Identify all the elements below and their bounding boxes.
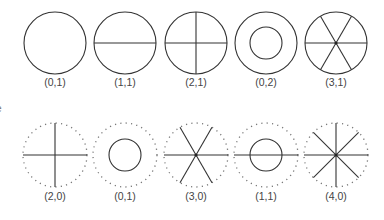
boundary-circle bbox=[235, 12, 297, 74]
dotted-boundary-circle bbox=[93, 123, 157, 187]
mode-label: (3,0) bbox=[185, 190, 207, 202]
mode-label: (4,0) bbox=[325, 190, 347, 202]
mode-top_row-3 bbox=[235, 12, 297, 74]
mode-bottom_row-4 bbox=[304, 123, 368, 187]
mode-label: (2,1) bbox=[185, 76, 207, 88]
mode-diagram bbox=[0, 0, 384, 220]
mode-label: (0,2) bbox=[255, 76, 277, 88]
mode-bottom_row-2 bbox=[164, 123, 228, 187]
nodal-circle bbox=[109, 139, 141, 171]
center-node-dot bbox=[334, 41, 337, 44]
boundary-circle bbox=[24, 12, 86, 74]
mode-top_row-2 bbox=[165, 12, 227, 74]
mode-bottom_row-1 bbox=[93, 123, 157, 187]
nodal-circle bbox=[250, 27, 282, 59]
mode-label: (1,1) bbox=[255, 190, 277, 202]
mode-top_row-1 bbox=[94, 12, 156, 74]
mode-label: (0,1) bbox=[44, 76, 66, 88]
mode-bottom_row-0 bbox=[23, 123, 87, 187]
mode-label: (1,1) bbox=[114, 76, 136, 88]
mode-top_row-4 bbox=[305, 12, 367, 74]
mode-bottom_row-3 bbox=[234, 123, 298, 187]
mode-label: (2,0) bbox=[44, 190, 66, 202]
center-node-dot bbox=[194, 153, 197, 156]
mode-top_row-0 bbox=[24, 12, 86, 74]
center-node-dot bbox=[334, 153, 337, 156]
mode-label: (3,1) bbox=[325, 76, 347, 88]
mode-label: (0,1) bbox=[114, 190, 136, 202]
